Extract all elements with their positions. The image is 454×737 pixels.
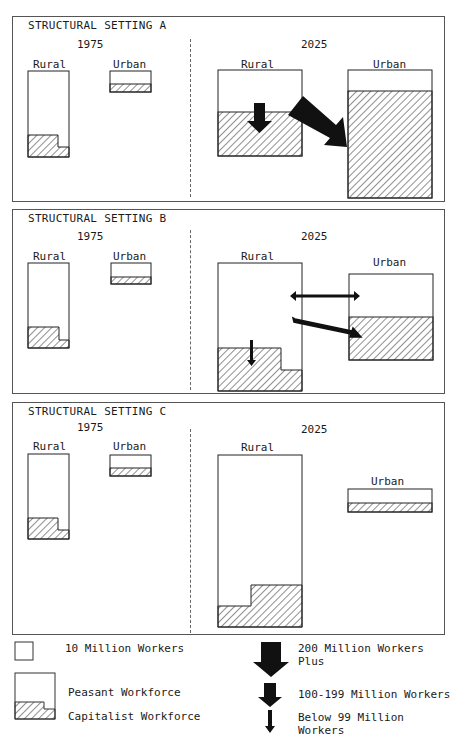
legend-peasant-label: Peasant Workforce <box>68 686 181 699</box>
legend-unit-box <box>15 642 33 660</box>
legend-graphics <box>0 0 454 737</box>
legend-arrow-large-label: 200 Million Workers Plus <box>298 642 454 668</box>
legend-unit-label: 10 Million Workers <box>65 642 184 655</box>
legend-arrow-large-icon <box>253 642 289 677</box>
legend-arrow-medium-label: 100-199 Million Workers <box>298 688 450 701</box>
legend-arrow-small-label: Below 99 Million Workers <box>298 711 454 737</box>
legend-arrow-small-icon <box>265 710 275 733</box>
legend-arrow-medium-icon <box>258 683 282 707</box>
legend-capitalist-label: Capitalist Workforce <box>68 710 200 723</box>
